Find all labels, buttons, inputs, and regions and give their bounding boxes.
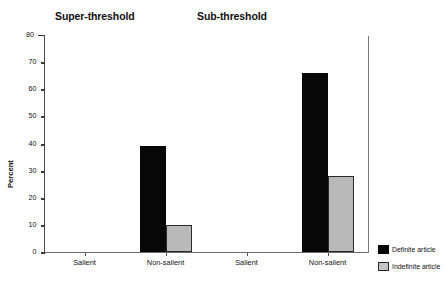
legend-label-definite: Definite article	[392, 246, 436, 253]
bar-non-salient-definite	[302, 73, 328, 252]
y-tick-label-80: 80	[26, 30, 34, 39]
y-tick-label-10: 10	[29, 220, 37, 229]
y-tick-label-30: 30	[29, 166, 37, 175]
x-axis-label-2: Salient	[235, 258, 258, 267]
bar-non-salient-indefinite	[328, 176, 354, 252]
x-axis-line	[44, 252, 368, 253]
x-axis-label-3: Non-salient	[309, 258, 346, 267]
legend-swatch-definite-icon	[378, 245, 389, 254]
x-tick-0	[85, 253, 86, 256]
y-tick-60: 60	[41, 89, 45, 91]
legend-label-indefinite: Indefinite article	[392, 263, 440, 270]
legend-swatch-indefinite-icon	[378, 262, 389, 271]
bar-chart-figure: Super-threshold Sub-threshold Percent 01…	[0, 0, 446, 286]
y-tick-0: 0	[41, 252, 45, 254]
x-tick-1	[166, 253, 167, 256]
y-tick-label-50: 50	[29, 111, 37, 120]
y-tick-label-0: 0	[33, 247, 37, 256]
y-tick-label-20: 20	[29, 193, 37, 202]
panel-title-super-threshold: Super-threshold	[55, 10, 135, 22]
x-tick-3	[328, 253, 329, 256]
legend-item-definite: Definite article	[378, 242, 446, 256]
y-tick-80: 80	[38, 35, 45, 36]
y-tick-label-70: 70	[29, 57, 37, 66]
y-tick-label-40: 40	[29, 139, 37, 148]
panel-title-sub-threshold: Sub-threshold	[197, 10, 267, 22]
plot-area: Percent 01020304050607080 SalientNon-sal…	[44, 36, 368, 253]
bar-non-salient-definite	[140, 146, 166, 252]
x-axis-label-1: Non-salient	[147, 258, 184, 267]
x-axis-label-0: Salient	[73, 258, 96, 267]
y-tick-20: 20	[41, 198, 45, 200]
x-tick-2	[247, 253, 248, 256]
y-tick-40: 40	[41, 144, 45, 146]
chart-legend: Definite article Indefinite article	[378, 242, 446, 276]
y-tick-10: 10	[41, 225, 45, 227]
y-tick-70: 70	[41, 62, 45, 64]
panel-divider-line	[368, 36, 369, 253]
legend-item-indefinite: Indefinite article	[378, 259, 446, 273]
y-tick-50: 50	[41, 116, 45, 118]
y-tick-30: 30	[41, 171, 45, 173]
y-tick-label-60: 60	[29, 84, 37, 93]
bar-non-salient-indefinite	[166, 225, 192, 252]
y-axis-label: Percent	[6, 160, 15, 188]
